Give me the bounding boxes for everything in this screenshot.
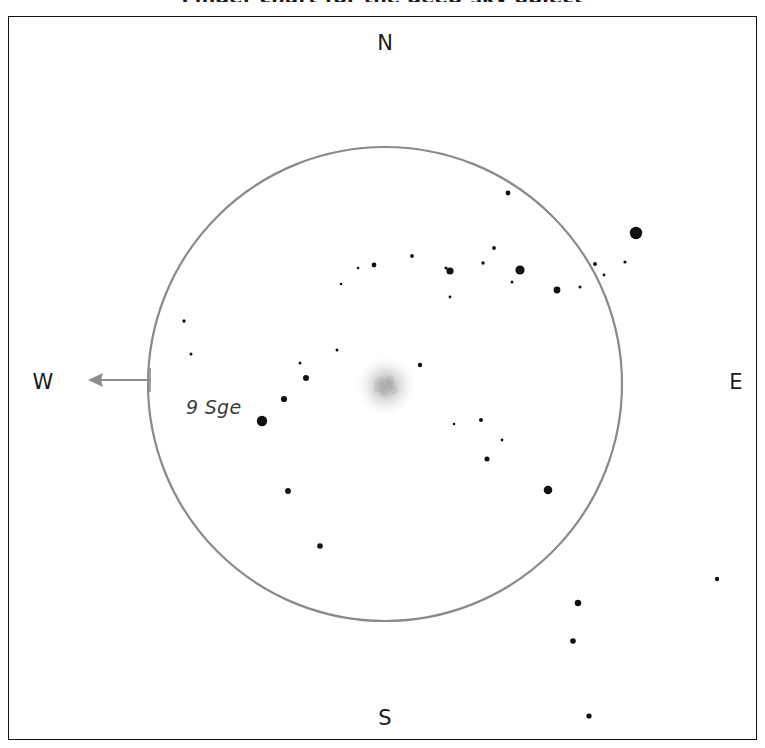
cardinal-label-north: N: [360, 33, 410, 54]
chart-bottom-caption: [8, 741, 757, 748]
chart-title: Finder chart for the deep-sky object: [0, 0, 765, 2]
cardinal-label-south: S: [360, 708, 410, 729]
star-label-9-sge: 9 Sge: [186, 396, 241, 418]
cardinal-label-east: E: [714, 372, 758, 393]
star-finder-chart: Finder chart for the deep-sky object N S…: [0, 0, 765, 748]
chart-frame-border: [8, 16, 757, 740]
cardinal-label-west: W: [18, 372, 68, 393]
